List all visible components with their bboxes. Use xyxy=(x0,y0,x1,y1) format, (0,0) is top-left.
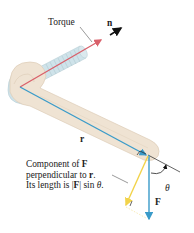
caption-leader-line xyxy=(112,175,128,183)
theta-arc xyxy=(151,165,166,174)
torque-leader-line xyxy=(80,27,92,42)
caption-line-2: perpendicular to r. xyxy=(26,170,104,181)
perpendicular-component-arrow xyxy=(126,156,148,205)
normal-n-label: n xyxy=(107,18,112,28)
force-label: F xyxy=(155,197,161,207)
caption-line-1: Component of F xyxy=(26,159,104,170)
torque-wrench-diagram xyxy=(0,0,194,233)
theta-label: θ xyxy=(165,183,170,193)
r-vector xyxy=(20,87,146,155)
caption-line-3: Its length is |F| sin θ. xyxy=(26,180,104,191)
wrench xyxy=(10,62,159,161)
normal-n-arrow xyxy=(110,28,121,35)
perpendicular-component-caption: Component of F perpendicular to r. Its l… xyxy=(26,159,104,191)
r-label: r xyxy=(80,134,84,144)
perp-dotted-projection xyxy=(126,207,146,218)
torque-label: Torque xyxy=(48,17,75,27)
